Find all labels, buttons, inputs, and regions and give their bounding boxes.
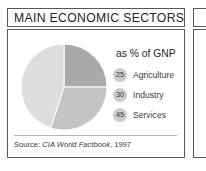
source-prefix: Source: — [14, 140, 42, 149]
legend-label: Agriculture — [133, 70, 174, 80]
chart-legend: as % of GNP 25Agriculture30Industry45Ser… — [113, 48, 185, 125]
adjacent-panel-body — [193, 29, 206, 158]
pie-chart-svg — [21, 44, 107, 130]
legend-value-badge: 45 — [113, 108, 127, 122]
legend-value-badge: 25 — [113, 68, 127, 82]
adjacent-panel-edge — [193, 8, 206, 158]
source-note: Source: CIA World Factbook, 1997 — [14, 140, 131, 149]
legend-label: Services — [133, 110, 166, 120]
pie-slice-agriculture — [64, 44, 107, 87]
source-divider — [14, 135, 177, 136]
panel-title-bar: MAIN ECONOMIC SECTORS — [7, 8, 185, 27]
source-title: CIA World Factbook — [42, 140, 110, 149]
economic-sectors-panel: MAIN ECONOMIC SECTORS as % of GNP 25Agri… — [7, 8, 185, 158]
page-title: MAIN ECONOMIC SECTORS — [14, 11, 184, 25]
legend-heading: as % of GNP — [116, 48, 185, 59]
legend-item-industry[interactable]: 30Industry — [113, 85, 185, 105]
legend-label: Industry — [133, 90, 164, 100]
legend-value-badge: 30 — [113, 88, 127, 102]
screenshot-root: MAIN ECONOMIC SECTORS as % of GNP 25Agri… — [0, 0, 206, 171]
pie-chart — [21, 44, 107, 130]
panel-body: as % of GNP 25Agriculture30Industry45Ser… — [7, 29, 185, 158]
legend-item-services[interactable]: 45Services — [113, 105, 185, 125]
source-suffix: , 1997 — [110, 140, 131, 149]
legend-item-agriculture[interactable]: 25Agriculture — [113, 65, 185, 85]
adjacent-panel-title-bar — [193, 8, 206, 27]
